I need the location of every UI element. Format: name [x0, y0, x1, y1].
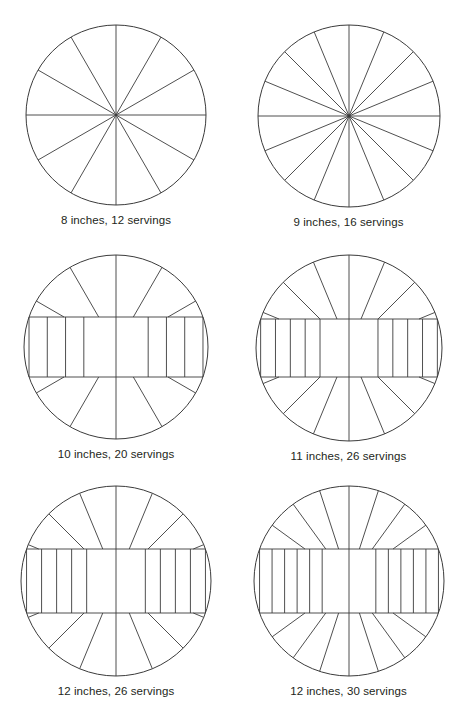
pizza-figure-2 — [255, 22, 443, 210]
pizza-diagram-4: 11 inches, 26 servings — [232, 237, 465, 469]
pizza-diagram-2: 9 inches, 16 servings — [232, 0, 465, 237]
pizza-8in-12servings — [23, 22, 209, 208]
pizza-diagram-sheet: 8 inches, 12 servings 9 inches, 16 servi… — [0, 0, 465, 719]
pizza-12in-30servings — [251, 483, 447, 679]
pizza-diagram-1: 8 inches, 12 servings — [0, 0, 232, 237]
pizza-diagram-6: 12 inches, 30 servings — [232, 469, 465, 719]
pizza-caption-4: 11 inches, 26 servings — [291, 450, 407, 462]
pizza-diagram-3: 10 inches, 20 servings — [0, 237, 232, 469]
pizza-caption-3: 10 inches, 20 servings — [58, 448, 175, 460]
pizza-figure-5 — [18, 483, 214, 679]
diagram-grid: 8 inches, 12 servings 9 inches, 16 servi… — [0, 0, 465, 719]
pizza-9in-16servings — [255, 22, 443, 210]
pizza-figure-3 — [21, 252, 211, 442]
pizza-figure-6 — [251, 483, 447, 679]
pizza-11in-26servings — [253, 252, 445, 444]
pizza-caption-6: 12 inches, 30 servings — [290, 685, 407, 697]
pizza-caption-2: 9 inches, 16 servings — [293, 216, 403, 228]
pizza-12in-26servings — [18, 483, 214, 679]
pizza-figure-1 — [23, 22, 209, 208]
pizza-figure-4 — [253, 252, 445, 444]
pizza-caption-1: 8 inches, 12 servings — [61, 214, 171, 226]
pizza-caption-5: 12 inches, 26 servings — [58, 685, 175, 697]
pizza-diagram-5: 12 inches, 26 servings — [0, 469, 232, 719]
pizza-10in-20servings — [21, 252, 211, 442]
